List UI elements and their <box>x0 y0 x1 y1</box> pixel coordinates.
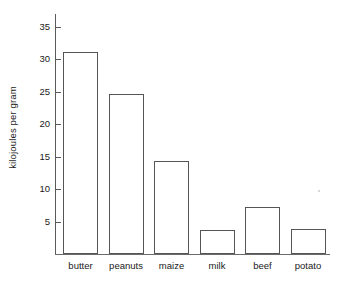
y-axis-tick-label: 15 <box>0 152 50 162</box>
y-axis-tick-mark <box>56 157 61 158</box>
y-axis-tick-mark <box>56 124 61 125</box>
bar-chart: kilojoules per gram 5101520253035 butter… <box>0 0 339 285</box>
bar-milk <box>200 230 235 254</box>
y-axis-tick-label-text: 5 <box>6 217 50 227</box>
bar-butter <box>63 52 98 254</box>
y-axis-tick-label-text: 25 <box>6 87 50 97</box>
bar-potato <box>291 229 326 254</box>
y-axis-tick-label: 25 <box>0 87 50 97</box>
y-axis-tick-label: 10 <box>0 184 50 194</box>
y-axis-line <box>55 14 56 255</box>
y-axis-tick-label: 20 <box>0 119 50 129</box>
y-axis-tick-label-text: 10 <box>6 184 50 194</box>
y-axis-tick-mark <box>56 222 61 223</box>
scan-artifact <box>318 190 320 192</box>
y-axis-tick-mark <box>56 59 61 60</box>
y-axis-tick-label: 35 <box>0 22 50 32</box>
y-axis-tick-mark <box>56 27 61 28</box>
category-label-potato: potato <box>278 260 338 271</box>
y-axis-tick-label-text: 35 <box>6 22 50 32</box>
bar-beef <box>245 207 280 254</box>
y-axis-tick-label: 30 <box>0 54 50 64</box>
bar-peanuts <box>109 94 144 254</box>
y-axis-tick-label-text: 30 <box>6 54 50 64</box>
y-axis-tick-label: 5 <box>0 217 50 227</box>
y-axis-tick-label-text: 20 <box>6 119 50 129</box>
y-axis-tick-mark <box>56 189 61 190</box>
x-axis-line <box>55 254 330 255</box>
bar-maize <box>154 161 189 254</box>
y-axis-tick-mark <box>56 92 61 93</box>
y-axis-tick-label-text: 15 <box>6 152 50 162</box>
